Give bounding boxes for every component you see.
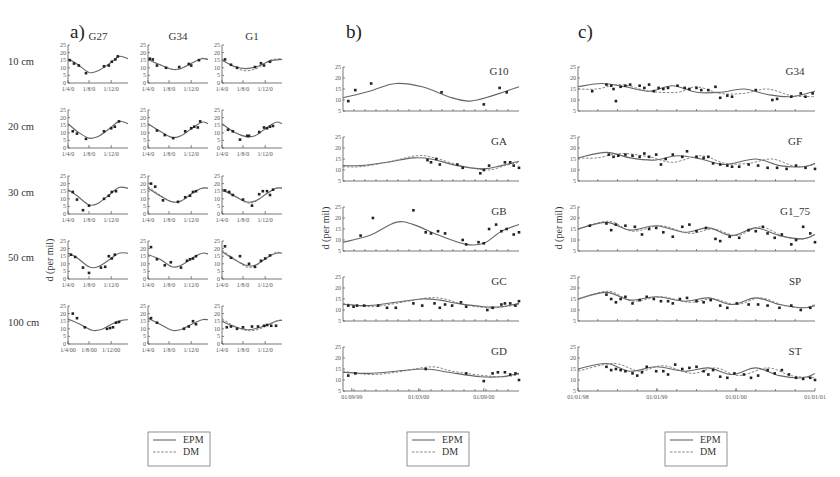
data-point <box>799 92 802 95</box>
data-point <box>776 98 779 101</box>
data-point <box>156 321 159 324</box>
y-tick-label: 25 <box>570 134 576 140</box>
y-tick-label: 10 <box>335 167 341 173</box>
data-point <box>188 63 191 66</box>
subplot-G27-30cm: 05101520251/4/01/8/01/12/0 <box>60 173 128 223</box>
data-point <box>172 137 175 140</box>
y-tick-label: 25 <box>140 42 146 48</box>
data-point <box>802 378 805 381</box>
data-point <box>785 168 788 171</box>
subplot-GD: 51015202501/09/9901/03/0001/09/00GD <box>335 344 520 400</box>
data-point <box>809 307 812 310</box>
y-tick-label: 5 <box>217 72 220 78</box>
y-tick-label: 5 <box>63 203 66 209</box>
y-tick-label: 10 <box>140 196 146 202</box>
data-point <box>356 304 359 307</box>
subplot-G1-50cm: 05101520251/4/01/8/01/12/0 <box>214 238 282 288</box>
data-point <box>108 255 111 258</box>
y-tick-label: 25 <box>570 274 576 280</box>
y-tick-label: 15 <box>214 57 220 63</box>
x-tick-label: 1/8/0 <box>237 217 249 223</box>
y-tick-label: 15 <box>140 318 146 324</box>
data-point <box>439 307 442 310</box>
data-point <box>488 164 491 167</box>
data-point <box>424 231 427 234</box>
data-point <box>72 191 75 194</box>
data-point <box>695 87 698 90</box>
y-tick-label: 20 <box>214 181 220 187</box>
y-tick-label: 25 <box>214 173 220 179</box>
y-tick-label: 25 <box>570 204 576 210</box>
data-point <box>164 264 167 267</box>
data-point <box>504 302 507 305</box>
data-point <box>811 92 814 95</box>
x-tick-label: 1/4/0 <box>216 347 228 353</box>
data-point <box>359 234 362 237</box>
data-point <box>82 266 85 269</box>
data-point <box>114 58 117 61</box>
data-point <box>439 163 442 166</box>
data-point <box>440 91 443 94</box>
data-point <box>702 370 705 373</box>
data-point <box>236 328 239 331</box>
data-point <box>662 88 665 91</box>
data-point <box>660 163 663 166</box>
x-tick-label: 01/01/00 <box>725 394 746 400</box>
subplot-title: GC <box>491 275 506 287</box>
data-point <box>195 255 198 258</box>
y-tick-label: 20 <box>214 246 220 252</box>
row-label: 50 cm <box>8 252 34 263</box>
data-point <box>426 159 429 162</box>
data-point <box>239 255 242 258</box>
data-point <box>479 172 482 175</box>
data-point <box>679 298 682 301</box>
x-tick-label: 1/12/0 <box>258 86 273 92</box>
data-point <box>192 191 195 194</box>
data-point <box>370 82 373 85</box>
data-point <box>395 307 398 310</box>
y-tick-label: 5 <box>573 248 576 254</box>
data-point <box>733 372 736 375</box>
y-tick-label: 20 <box>570 285 576 291</box>
subplot-G34: 510152025G34 <box>570 64 815 114</box>
x-tick-label: 1/12/0 <box>184 217 199 223</box>
y-tick-label: 15 <box>570 226 576 232</box>
x-tick-label: 1/12/00 <box>102 347 120 353</box>
data-point <box>272 188 275 191</box>
y-tick-label: 20 <box>335 145 341 151</box>
data-point <box>617 154 620 157</box>
x-tick-label: 1/4/0 <box>142 217 154 223</box>
epm-curve <box>148 318 208 331</box>
data-point <box>676 84 679 87</box>
y-tick-label: 15 <box>140 253 146 259</box>
data-point <box>70 253 73 256</box>
y-tick-label: 15 <box>214 122 220 128</box>
y-tick-label: 25 <box>335 204 341 210</box>
data-point <box>653 298 656 301</box>
data-point <box>719 375 722 378</box>
subplot-title: GF <box>788 135 802 147</box>
x-tick-label: 1/8/0 <box>163 217 175 223</box>
epm-curve <box>343 299 519 307</box>
x-tick-label: 01/01/01 <box>804 394 825 400</box>
x-tick-label: 1/12/0 <box>258 217 273 223</box>
y-tick-label: 5 <box>63 137 66 143</box>
x-tick-label: 1/4/0 <box>216 282 228 288</box>
data-point <box>497 371 500 374</box>
data-point <box>195 190 198 193</box>
y-tick-label: 5 <box>573 178 576 184</box>
data-point <box>757 374 760 377</box>
x-tick-label: 1/8/00 <box>81 347 96 353</box>
data-point <box>424 368 427 371</box>
data-point <box>795 164 798 167</box>
data-point <box>638 299 641 302</box>
data-point <box>435 158 438 161</box>
y-tick-label: 25 <box>214 107 220 113</box>
data-point <box>88 272 91 275</box>
data-point <box>509 161 512 164</box>
y-tick-label: 25 <box>140 107 146 113</box>
data-point <box>615 301 618 304</box>
y-tick-label: 10 <box>570 307 576 313</box>
y-tick-label: 20 <box>335 285 341 291</box>
data-point <box>488 228 491 231</box>
